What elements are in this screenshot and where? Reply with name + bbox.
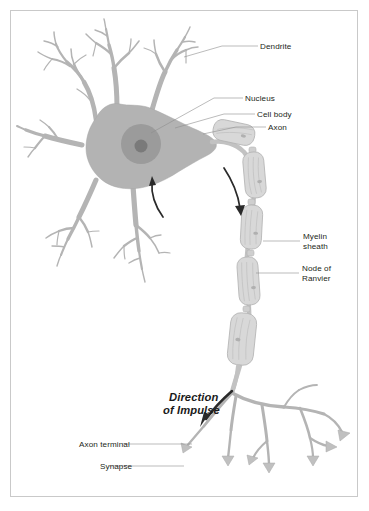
- label-direction-line1: Direction: [169, 391, 218, 403]
- neuron-figure: Dendrite Nucleus Cell body Axon Myelin s…: [0, 0, 369, 511]
- label-myelin-sheath-line2: sheath: [303, 242, 328, 251]
- nucleolus: [135, 140, 148, 153]
- neuron-diagram-canvas: Dendrite Nucleus Cell body Axon Myelin s…: [0, 0, 369, 511]
- label-node-of-ranvier-line2: Ranvier: [302, 274, 331, 283]
- label-dendrite: Dendrite: [260, 42, 292, 51]
- myelin-segment: [236, 256, 260, 305]
- label-node-of-ranvier-line1: Node of: [302, 264, 332, 273]
- myelin-segment: [226, 312, 257, 366]
- myelin-segment: [240, 205, 263, 250]
- label-synapse: Synapse: [100, 462, 133, 471]
- myelin-segment: [242, 151, 267, 199]
- node-of-ranvier: [248, 199, 255, 205]
- node-of-ranvier: [247, 250, 254, 256]
- node-of-ranvier: [243, 306, 250, 312]
- label-axon-terminal: Axon terminal: [79, 440, 130, 449]
- label-cell-body: Cell body: [257, 110, 292, 119]
- label-axon: Axon: [268, 123, 287, 132]
- label-direction-line2: of Impulse: [163, 404, 220, 416]
- label-myelin-sheath-line1: Myelin: [303, 232, 327, 241]
- label-nucleus: Nucleus: [245, 94, 275, 103]
